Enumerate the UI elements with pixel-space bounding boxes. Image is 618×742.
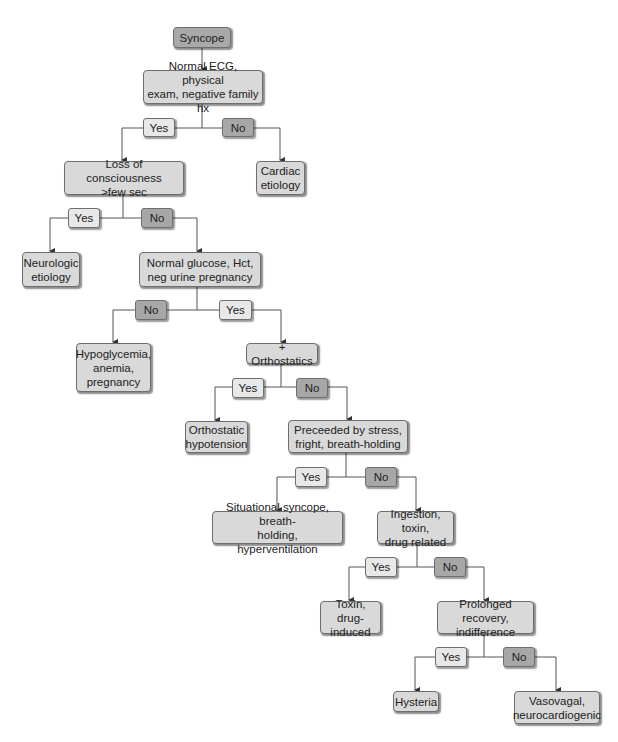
node-hysteria: Hysteria (393, 691, 439, 712)
node-situational-syncope: Situational syncope, breath- holding, hy… (212, 511, 343, 544)
label-yes: Yes (295, 467, 327, 487)
node-hypoglycemia: Hypoglycemia, anemia, pregnancy (76, 343, 151, 392)
node-preceeded-by-stress: Preceeded by stress, fright, breath-hold… (288, 420, 408, 453)
node-neurologic-etiology: Neurologic etiology (22, 252, 80, 287)
label-yes: Yes (68, 208, 100, 228)
node-loss-of-consciousness: Loss of consciousness >few sec (64, 161, 184, 195)
label-yes: Yes (232, 378, 264, 398)
node-normal-glucose: Normal glucose, Hct, neg urine pregnancy (139, 252, 261, 287)
node-cardiac-etiology: Cardiac etiology (256, 161, 305, 195)
node-orthostatic-hypotension: Orthostatic hypotension (185, 421, 248, 453)
label-yes: Yes (435, 647, 467, 667)
syncope-flowchart: Syncope Normal ECG, physical exam, negat… (0, 0, 618, 742)
node-ingestion-toxin: Ingestion, toxin, drug related (377, 511, 454, 544)
label-yes: Yes (219, 300, 252, 320)
label-yes: Yes (143, 118, 175, 137)
label-no: No (296, 378, 328, 398)
node-prolonged-recovery: Prolonged recovery, indifference (437, 601, 534, 634)
label-no: No (141, 208, 173, 228)
label-no: No (222, 118, 254, 137)
node-vasovagal: Vasovagal, neurocardiogenic (514, 691, 600, 724)
node-syncope: Syncope (173, 27, 231, 48)
label-no: No (135, 300, 167, 320)
label-no: No (434, 557, 466, 577)
label-no: No (365, 467, 397, 487)
node-orthostatics: + Orthostatics (246, 343, 318, 364)
node-normal-ecg: Normal ECG, physical exam, negative fami… (143, 70, 263, 104)
node-toxin-drug-induced: Toxin, drug- induced (320, 601, 381, 634)
label-yes: Yes (365, 557, 397, 577)
label-no: No (503, 647, 535, 667)
